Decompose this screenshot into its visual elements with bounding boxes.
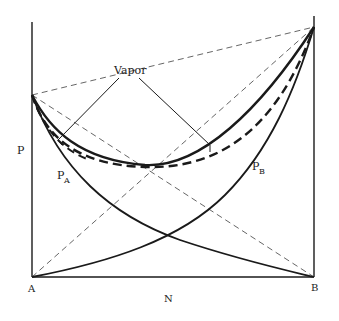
partial-a-subscript: A xyxy=(63,176,70,185)
vapor-leader-left xyxy=(58,78,119,140)
corner-b-label: B xyxy=(311,282,318,293)
corner-a-label: A xyxy=(27,283,36,294)
x-axis-label: N xyxy=(164,293,173,304)
vapor-label: Vapor xyxy=(113,64,147,77)
total-pressure-vapor-curve xyxy=(32,27,314,167)
total-pressure-liquid-curve xyxy=(32,27,314,165)
phase-diagram: Vapor P N A B P A P B xyxy=(0,0,339,321)
ideal-partial-a-line xyxy=(32,95,314,277)
y-axis-label: P xyxy=(17,144,25,157)
vapor-leader-right xyxy=(139,78,210,145)
partial-b-subscript: B xyxy=(259,167,265,176)
